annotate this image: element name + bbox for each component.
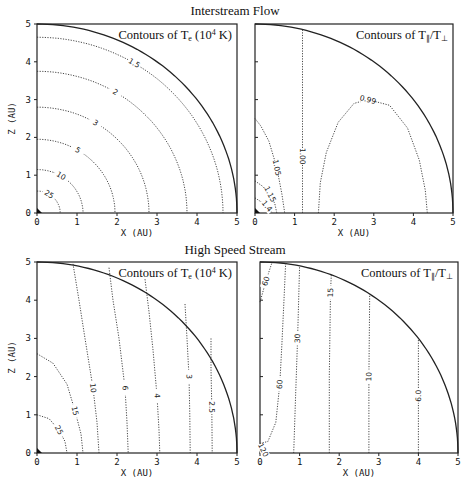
x-tick-label: 3 [371, 217, 376, 227]
contour-label: 15 [326, 287, 335, 297]
origin-marker [37, 448, 42, 453]
contour-label: 30 [293, 333, 302, 343]
y-tick-label: 5 [26, 19, 31, 29]
panel-interstream-ratio: 012345X (AU)Contours of T∥/T⊥1.41.151.05… [252, 24, 455, 238]
contour-label: 0.99 [359, 93, 378, 106]
contour-label: 10 [88, 383, 98, 394]
panel-title: Contours of Te (104 K) [118, 266, 232, 281]
x-tick-label: 4 [411, 217, 416, 227]
contour-label: 6.0 [414, 390, 423, 402]
plot-frame [37, 262, 237, 453]
contour-line [37, 354, 83, 453]
contour-line [145, 279, 160, 453]
x-tick-label: 5 [234, 217, 239, 227]
contour-line [294, 266, 300, 453]
plot-frame [255, 24, 453, 213]
y-axis-label: Z (AU) [7, 102, 17, 135]
panel-highspeed-ratio: 012345X (AU)Contours of T∥/T⊥12060603015… [256, 262, 461, 478]
contour-label: 120 [256, 442, 271, 459]
x-tick-label: 5 [234, 457, 239, 467]
x-tick-label: 3 [154, 457, 159, 467]
section-title-high-speed: High Speed Stream [184, 242, 285, 257]
boundary-curve [37, 262, 237, 453]
y-tick-label: 3 [26, 95, 31, 105]
x-tick-label: 5 [455, 457, 460, 467]
figure: Interstream Flow High Speed Stream 01234… [0, 0, 470, 488]
y-axis-label: Z (AU) [7, 341, 17, 374]
y-tick-label: 4 [26, 57, 31, 67]
x-tick-label: 3 [154, 217, 159, 227]
y-tick-label: 5 [26, 257, 31, 267]
y-tick-label: 2 [26, 372, 31, 382]
origin-marker [37, 208, 42, 213]
panel-highspeed-te: 012345012345X (AU)Z (AU)Contours of Te (… [7, 257, 240, 478]
x-tick-label: 4 [416, 457, 421, 467]
x-tick-label: 2 [331, 217, 336, 227]
x-axis-label: X (AU) [338, 228, 371, 238]
y-tick-label: 3 [26, 333, 31, 343]
contour-line [329, 275, 331, 453]
plot-frame [37, 24, 237, 213]
x-axis-label: X (AU) [121, 228, 154, 238]
x-tick-label: 5 [450, 217, 455, 227]
x-tick-label: 2 [114, 217, 119, 227]
x-tick-label: 0 [34, 457, 39, 467]
x-tick-label: 0 [257, 457, 262, 467]
x-tick-label: 1 [297, 457, 302, 467]
x-tick-label: 1 [292, 217, 297, 227]
contour-label: 2.5 [207, 401, 216, 413]
x-axis-label: X (AU) [343, 468, 376, 478]
y-tick-label: 1 [26, 170, 31, 180]
contour-label: 3 [184, 374, 193, 379]
boundary-curve [255, 24, 453, 213]
x-tick-label: 2 [336, 457, 341, 467]
contour-line [318, 100, 427, 213]
x-tick-label: 1 [74, 217, 79, 227]
boundary-curve [37, 24, 237, 213]
contour-label: 1.5 [127, 56, 142, 70]
plot-frame [260, 262, 458, 453]
panel-title: Contours of Te (104 K) [118, 28, 232, 43]
contour-line [109, 268, 128, 453]
y-tick-label: 0 [26, 448, 31, 458]
contour-label: 6 [120, 385, 129, 391]
y-tick-label: 0 [26, 208, 31, 218]
x-tick-label: 4 [194, 457, 199, 467]
x-tick-label: 4 [194, 217, 199, 227]
x-tick-label: 3 [376, 457, 381, 467]
panel-interstream-te: 012345012345X (AU)Z (AU)Contours of Te (… [7, 19, 240, 238]
contour-label: 4 [152, 393, 161, 399]
contour-label: 1.05 [271, 159, 283, 177]
y-tick-label: 2 [26, 132, 31, 142]
x-tick-label: 0 [252, 217, 257, 227]
x-tick-label: 0 [34, 217, 39, 227]
contour-label: 60 [275, 379, 284, 389]
contour-label: 1.00 [298, 148, 307, 165]
contour-label: 10 [364, 372, 373, 382]
x-tick-label: 2 [114, 457, 119, 467]
origin-marker [255, 208, 260, 213]
x-axis-label: X (AU) [121, 468, 154, 478]
y-tick-label: 1 [26, 410, 31, 420]
contour-line [73, 264, 99, 453]
panel-title: Contours of T∥/T⊥ [356, 28, 448, 43]
section-title-interstream: Interstream Flow [190, 3, 280, 18]
panel-title: Contours of T∥/T⊥ [361, 266, 453, 281]
y-tick-label: 4 [26, 295, 31, 305]
boundary-curve [260, 262, 458, 453]
contour-line [211, 338, 212, 453]
x-tick-label: 1 [74, 457, 79, 467]
